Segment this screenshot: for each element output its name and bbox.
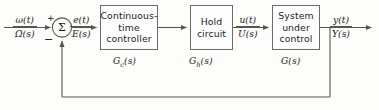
- signal-time-domain: e(t): [70, 14, 93, 27]
- signal-label-control: u(t) U(s): [236, 14, 260, 39]
- block-label-line-2: circuit: [197, 28, 226, 39]
- transfer-function-label-controller: Gc(s): [113, 55, 136, 69]
- signal-label-reference-input: ω(t) Ω(s): [13, 14, 37, 39]
- block-continuous-time-controller: Continuous- time controller: [100, 5, 158, 50]
- signal-laplace-domain: Y(s): [330, 27, 352, 39]
- transfer-function-label-hold: Gh(s): [189, 55, 212, 69]
- summing-junction-minus-sign: −: [44, 33, 53, 46]
- control-system-block-diagram: Σ Continuous- time controller Hold circu…: [0, 0, 379, 110]
- block-label-line-3: controller: [101, 33, 158, 44]
- transfer-function-label-system: G(s): [281, 55, 300, 66]
- block-label-line-1: Hold: [197, 16, 226, 27]
- tf-suffix: (s): [124, 55, 136, 66]
- block-label-line-1: Continuous-: [101, 10, 158, 21]
- signal-time-domain: u(t): [236, 14, 260, 27]
- tf-suffix: (s): [201, 55, 213, 66]
- block-hold-circuit: Hold circuit: [190, 5, 233, 50]
- signal-label-output: y(t) Y(s): [330, 14, 352, 39]
- signal-laplace-domain: Ω(s): [13, 27, 37, 39]
- signal-laplace-domain: E(s): [70, 27, 93, 39]
- signal-laplace-domain: U(s): [236, 27, 260, 39]
- sigma-symbol: Σ: [58, 21, 66, 34]
- signal-time-domain: y(t): [330, 14, 352, 27]
- signal-time-domain: ω(t): [13, 14, 37, 27]
- tf-suffix: (s): [288, 55, 300, 66]
- summing-junction-plus-sign: +: [47, 13, 55, 23]
- block-label-line-3: control: [278, 33, 313, 44]
- block-label-line-2: time: [101, 22, 158, 33]
- signal-label-error: e(t) E(s): [70, 14, 93, 39]
- block-label-line-1: System: [278, 10, 313, 21]
- block-label-line-2: under: [278, 22, 313, 33]
- block-system-under-control: System under control: [272, 5, 320, 50]
